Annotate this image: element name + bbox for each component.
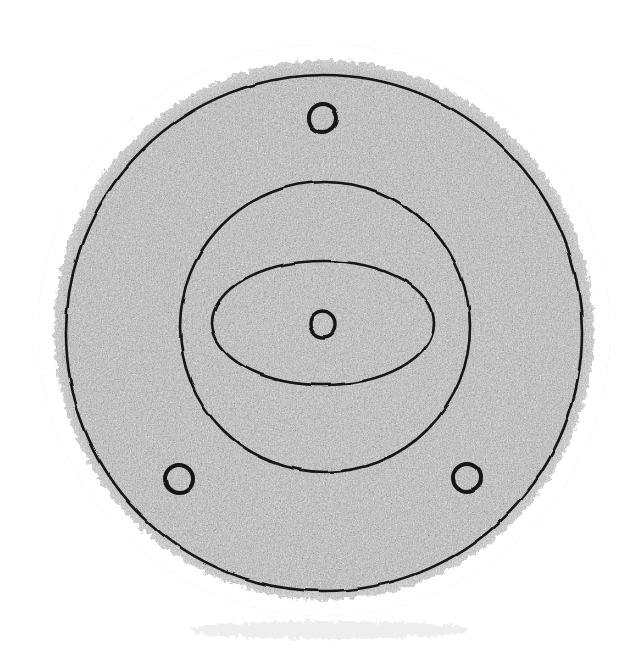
figure-root: Circular flange plate — plan view bbox=[0, 0, 643, 660]
technical-drawing-canvas: Circular flange plate — plan view bbox=[0, 0, 643, 660]
scan-residue bbox=[190, 621, 470, 639]
